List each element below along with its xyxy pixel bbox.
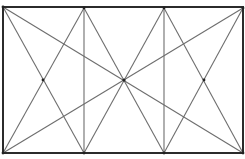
bottom-v1-point — [83, 152, 86, 155]
bottom-v2-point — [163, 152, 166, 155]
bottom-left-point — [2, 152, 5, 155]
top-v1-point — [83, 7, 86, 10]
left-cross-point — [42, 79, 45, 82]
bottom-right-point — [242, 152, 245, 155]
top-left-point — [2, 6, 5, 9]
top-right-point — [242, 7, 245, 10]
top-v2-point — [163, 7, 166, 10]
geometric-line-diagram — [0, 0, 245, 159]
right-cross-point — [203, 79, 206, 82]
center-point — [122, 78, 125, 81]
